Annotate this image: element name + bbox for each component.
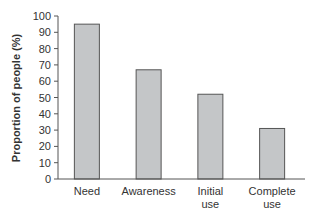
bar-chart: 0102030405060708090100 NeedAwarenessInit… <box>0 0 325 220</box>
y-tick-label: 10 <box>39 157 51 169</box>
x-category-label: Initial <box>198 185 224 197</box>
bar-initial-use <box>198 94 223 179</box>
y-tick-label: 20 <box>39 140 51 152</box>
x-category-label: Awareness <box>122 185 177 197</box>
bar-complete-use <box>260 128 285 179</box>
x-category-label: use <box>202 198 220 210</box>
y-axis: 0102030405060708090100 <box>33 10 58 185</box>
y-tick-label: 50 <box>39 92 51 104</box>
x-category-label: Complete <box>249 185 296 197</box>
y-axis-label: Proportion of people (%) <box>10 34 22 163</box>
x-category-label: Need <box>74 185 100 197</box>
y-tick-label: 0 <box>45 173 51 185</box>
bar-awareness <box>136 70 161 179</box>
x-category-label: use <box>263 198 281 210</box>
y-tick-label: 40 <box>39 108 51 120</box>
y-tick-label: 90 <box>39 26 51 38</box>
y-tick-label: 60 <box>39 75 51 87</box>
bars <box>74 24 284 179</box>
y-tick-label: 100 <box>33 10 51 22</box>
bar-need <box>74 24 99 179</box>
x-axis: NeedAwarenessInitialuseCompleteuse <box>58 179 305 210</box>
y-tick-label: 30 <box>39 124 51 136</box>
y-tick-label: 70 <box>39 59 51 71</box>
y-tick-label: 80 <box>39 43 51 55</box>
